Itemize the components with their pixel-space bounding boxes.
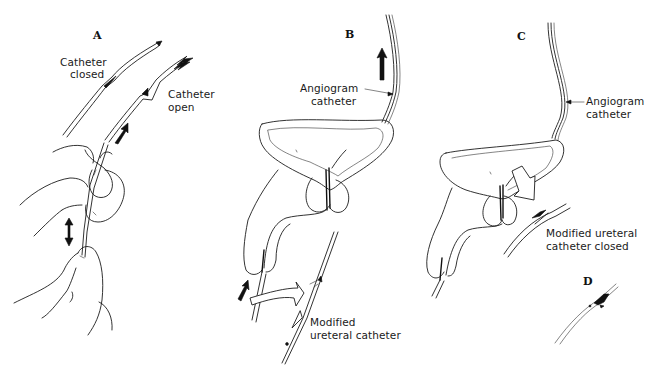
hollow-curved-arrow-icon [250,282,304,306]
lower-hand-drawing [14,247,112,336]
angiogram-catheter-c [548,23,568,140]
label-modified-closed-line1: Modified ureteral [546,227,637,239]
panel-label-a: A [92,29,102,42]
panel-a: A Catheter closed Catheter open [14,29,215,335]
panel-label-d: D [583,275,593,288]
label-catheter-open-line1: Catheter [168,88,215,100]
pointer-arrowhead [566,100,571,104]
upper-hand-drawing [20,145,124,236]
double-arrow-vertical-icon [65,218,73,246]
panel-label-c: C [517,30,526,43]
catheter-tip-detail-d [555,284,618,344]
label-catheter-closed-line1: Catheter [60,56,107,68]
panel-d: D [555,275,618,344]
medical-illustration: A Catheter closed Catheter open [0,0,654,375]
label-modified-b-line2: ureteral catheter [310,329,401,341]
arrow-up-right-b-icon [238,280,249,301]
label-angiogram-c-line1: Angiogram [586,95,644,107]
arrow-up-icon [377,48,387,80]
label-angiogram-c-line2: catheter [586,108,632,120]
bladder-drawing-b [259,120,393,213]
catheter-shaft-a [82,143,108,257]
angiogram-catheter-b [382,15,400,124]
label-modified-closed-line2: catheter closed [546,240,629,252]
label-catheter-closed-line2: closed [70,68,104,80]
label-angiogram-b-line2: catheter [311,95,357,107]
bladder-drawing-c [440,140,564,226]
label-angiogram-b-line1: Angiogram [300,82,358,94]
panel-b: B Angiogram catheter [238,15,401,364]
urethra-drawing-c [427,188,502,298]
panel-c: C Angiogram catheter [427,23,645,298]
hollow-arrow-down-right-icon [512,166,535,200]
panel-label-b: B [345,28,354,41]
label-modified-b-line1: Modified [310,316,356,328]
label-catheter-open-line2: open [168,101,195,113]
